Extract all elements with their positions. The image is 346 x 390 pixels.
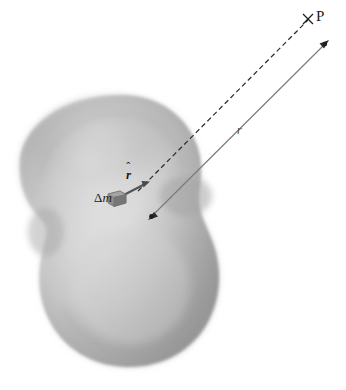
unit-vector-label: ˆr — [126, 168, 131, 181]
point-p-text: P — [316, 8, 325, 24]
vector-head-point — [323, 42, 327, 46]
mass-symbol: m — [102, 190, 111, 205]
physics-figure: P Δm ˆr r — [0, 0, 346, 390]
extended-body-group — [20, 95, 219, 367]
r-hat-stack: ˆr — [126, 168, 131, 181]
figure-canvas — [0, 0, 346, 390]
vector-tail-point — [149, 214, 154, 219]
body-rim-shading — [20, 95, 219, 367]
distance-label: r — [237, 124, 242, 136]
distance-text: r — [237, 123, 242, 137]
point-p-label: P — [316, 9, 325, 24]
hat-accent: ˆ — [126, 161, 130, 173]
point-p-cross-mark — [303, 14, 313, 24]
mass-element-label: Δm — [94, 191, 112, 204]
